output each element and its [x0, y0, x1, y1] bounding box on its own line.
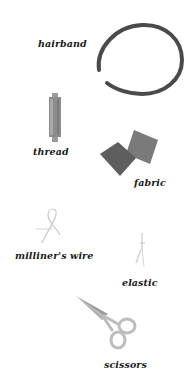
thread-spool-icon — [48, 93, 62, 143]
elastic-label: elastic — [122, 277, 158, 288]
elastic-illustration — [133, 233, 149, 271]
thread-illustration — [48, 93, 62, 143]
scissors-illustration — [74, 292, 144, 352]
milliners-wire-label: milliner's wire — [15, 250, 93, 261]
hairband-icon — [94, 18, 188, 98]
fabric-label: fabric — [134, 177, 166, 188]
wire-loop-icon — [34, 205, 64, 245]
milliners-wire-illustration — [34, 205, 64, 245]
scissors-label: scissors — [104, 359, 147, 370]
thread-label: thread — [33, 146, 69, 157]
hairband-illustration — [94, 18, 188, 98]
elastic-icon — [133, 233, 149, 271]
scissors-icon — [74, 292, 144, 352]
hairband-label: hairband — [38, 38, 87, 49]
